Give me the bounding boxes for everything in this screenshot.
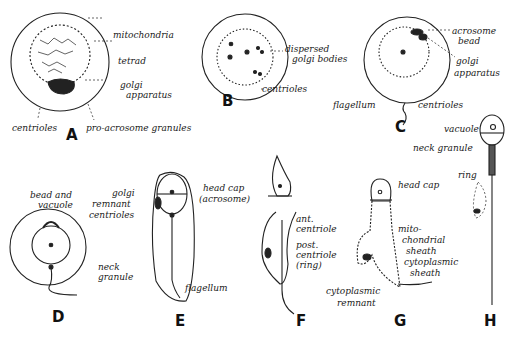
label-c-flagellum: flagellum xyxy=(333,100,376,110)
diagram-canvas xyxy=(0,0,516,338)
cell-f-illustration xyxy=(262,156,296,314)
label-e-acrosome: (acrosome) xyxy=(199,194,250,204)
label-g-remnant: remnant xyxy=(337,298,376,308)
label-g-cytoplasmic: cytoplasmic xyxy=(404,257,458,267)
panel-label-b: B xyxy=(222,92,233,110)
label-a-apparatus: apparatus xyxy=(126,90,172,100)
panel-label-d: D xyxy=(52,308,64,326)
label-f-post: post. xyxy=(296,240,318,250)
label-e-remnant: remnant xyxy=(92,199,131,209)
label-c-apparatus: apparatus xyxy=(454,68,500,78)
label-b-centrioles: centrioles xyxy=(262,84,307,94)
panel-label-a: A xyxy=(66,126,78,144)
label-e-golgi: golgi xyxy=(112,188,135,198)
label-c-bead: bead xyxy=(458,36,480,46)
label-a-mitochondria: mitochondria xyxy=(113,30,174,40)
label-a-tetrad: tetrad xyxy=(118,56,146,66)
label-d-bead-and: bead and xyxy=(30,190,72,200)
cell-e-illustration xyxy=(152,172,194,301)
label-g-sheath: sheath xyxy=(406,246,437,256)
label-e-flagellum: flagellum xyxy=(185,283,228,293)
label-a-pro-acrosome-granules: pro-acrosome granules xyxy=(86,123,191,133)
label-h-vacuole: vacuole xyxy=(444,124,479,134)
label-g-cytoplasmic-remnant-1: cytoplasmic xyxy=(326,286,380,296)
label-c-golgi: golgi xyxy=(456,56,479,66)
label-h-ring: ring xyxy=(458,170,477,180)
cell-a-illustration xyxy=(11,13,114,120)
label-f-ring: (ring) xyxy=(296,260,322,270)
label-c-centrioles: centrioles xyxy=(418,100,463,110)
label-b-dispersed: dispersed xyxy=(285,44,329,54)
label-b-golgi-bodies: golgi bodies xyxy=(292,54,347,64)
cell-h-illustration xyxy=(473,115,504,305)
panel-label-g: G xyxy=(394,312,406,330)
label-d-vacuole: vacuole xyxy=(38,200,73,210)
panel-label-e: E xyxy=(175,312,185,330)
label-f-post-centriole: centriole xyxy=(296,250,337,260)
panel-label-h: H xyxy=(484,312,497,330)
label-g-mito: mito- xyxy=(398,224,422,234)
cell-d-illustration xyxy=(10,209,86,295)
label-g-head-cap: head cap xyxy=(398,180,439,190)
label-d-neck: neck xyxy=(98,262,120,272)
label-g-cytoplasmic-sheath: sheath xyxy=(410,268,441,278)
label-a-centrioles: centrioles xyxy=(12,123,57,133)
panel-label-c: C xyxy=(395,118,406,136)
label-e-head-cap: head cap xyxy=(203,183,244,193)
label-g-chondrial: chondrial xyxy=(402,235,445,245)
label-f-ant-centriole: centriole xyxy=(296,224,337,234)
label-e-centrioles: centrioles xyxy=(89,210,134,220)
panel-label-f: F xyxy=(296,312,306,330)
label-c-acrosome: acrosome xyxy=(452,26,496,36)
label-d-granule: granule xyxy=(98,272,133,282)
label-f-ant: ant. xyxy=(296,214,314,224)
label-h-neck-granule: neck granule xyxy=(413,143,473,153)
label-a-golgi: golgi xyxy=(120,80,143,90)
